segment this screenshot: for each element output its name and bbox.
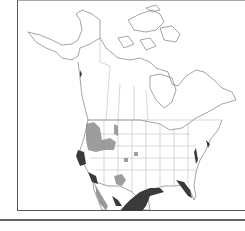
- north-america-map: [0, 0, 245, 231]
- political-boundaries: [86, 38, 222, 196]
- range-light: [86, 122, 138, 210]
